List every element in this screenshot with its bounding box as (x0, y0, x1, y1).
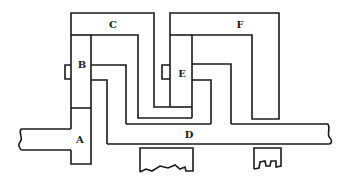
pipe-d (107, 124, 332, 144)
support-right (254, 148, 281, 169)
label-f: F (236, 19, 243, 30)
label-d: D (185, 129, 194, 140)
label-e: E (178, 68, 186, 79)
diagram-canvas: A B C D E F (0, 0, 349, 185)
label-b: B (78, 59, 86, 70)
label-c: C (109, 19, 117, 30)
support-left (140, 148, 193, 172)
label-a: A (75, 134, 84, 145)
